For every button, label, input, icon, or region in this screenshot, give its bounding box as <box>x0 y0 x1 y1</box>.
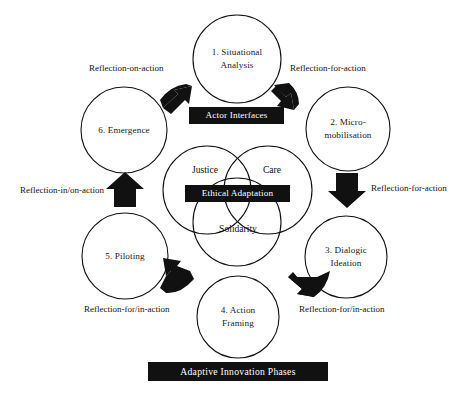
venn-label-justice: Justice <box>173 164 237 176</box>
phase-label-3: 3. Dialogic Ideation <box>301 244 391 269</box>
venn-label-solidarity: Solidarity <box>205 223 271 235</box>
arrow-action-framing-to-piloting <box>160 258 194 293</box>
phase-label-4: 4. Action Framing <box>193 304 283 329</box>
arrow-situational-analysis-to-micro-mobilisation <box>271 83 299 110</box>
arrow-micro-mobilisation-to-dialogic-ideation <box>328 173 366 208</box>
venn-label-care: Care <box>244 164 300 176</box>
phase-label-5: 5. Piloting <box>80 250 170 263</box>
diagram-canvas: 1. Situational Analysis 2. Micro- mobili… <box>0 0 459 403</box>
edge-label-reflection-for-action-right: Reflection-for-action <box>371 183 447 194</box>
arrow-emergence-to-situational-analysis <box>160 84 192 114</box>
phase-label-2: 2. Micro- mobilisation <box>303 116 393 141</box>
edge-label-reflection-for-in-action-right: Reflection-for/in-action <box>299 304 384 315</box>
ethical-adaptation-box: Ethical Adaptation <box>185 185 290 202</box>
edge-label-reflection-for-in-action-left: Reflection-for/in-action <box>84 304 169 315</box>
edge-label-reflection-for-action-top: Reflection-for-action <box>290 63 366 74</box>
edge-label-reflection-on-action: Reflection-on-action <box>89 63 163 74</box>
edge-label-reflection-in-on-action: Reflection-in/on-action <box>20 185 104 196</box>
arrow-piloting-to-emergence <box>106 172 144 207</box>
phase-label-6: 6. Emergence <box>79 124 169 137</box>
phase-label-1: 1. Situational Analysis <box>187 46 287 71</box>
actor-interfaces-box: Actor Interfaces <box>189 107 284 124</box>
adaptive-innovation-phases-box: Adaptive Innovation Phases <box>148 362 328 381</box>
arrow-dialogic-ideation-to-action-framing <box>288 271 330 297</box>
